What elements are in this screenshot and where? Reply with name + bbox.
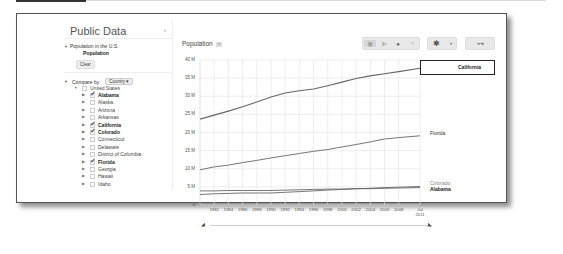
tree-item-label: Arizona [98,107,115,114]
top-divider [86,0,546,1]
expand-icon[interactable]: ▶ [82,114,90,121]
y-tick-label: 10 M [173,166,195,171]
expand-icon[interactable]: ▶ [82,144,90,151]
chart-title: Population? [182,40,222,47]
sidebar-title: Public Data [70,25,126,37]
x-tick-label: 2008 [390,207,408,212]
tree-item[interactable]: ▶Arkansas [82,114,119,121]
y-tick-label: 35 M [173,75,195,80]
clear-button[interactable]: Clear [76,60,95,69]
checkbox[interactable] [90,145,95,150]
checkbox[interactable] [90,167,95,172]
tree-item[interactable]: ▶Connecticut [82,136,124,143]
divider [64,38,172,39]
expand-icon: ▼ [64,79,70,84]
checkbox[interactable] [90,160,95,165]
collapse-icon[interactable]: ▼ [74,85,82,92]
checkbox[interactable] [82,86,87,91]
y-tick-label: 15 M [173,148,195,153]
gear-icon: ✱ [431,39,443,48]
checkbox[interactable] [90,100,95,105]
bubble-chart-icon[interactable]: ⁘ [406,40,418,47]
checkbox[interactable] [90,174,95,179]
tree-item-label: District of Columbia [98,151,141,158]
tree-item[interactable]: ▶California [82,122,121,129]
checkbox[interactable] [90,108,95,113]
tree-item-label: Hawaii [98,173,113,180]
link-button[interactable]: ⊶ [465,37,495,50]
x-tick-label: Jul 2011 [414,207,426,217]
tree-item-label: Idaho [98,181,111,188]
timeline-end-handle[interactable]: ◣ [428,221,432,227]
y-tick-label: 40 M [173,57,195,62]
tree-item[interactable]: ▶Hawaii [82,173,113,180]
help-icon[interactable]: ? [216,42,222,47]
tree-item-label: California [98,122,121,129]
tree-item-label: Arkansas [98,114,119,121]
tree-item-label: Alabama [98,92,119,99]
series-label-california[interactable]: California [458,64,481,70]
y-tick-label: 0 [173,202,195,207]
expand-icon[interactable]: ▶ [82,99,90,106]
timeline-start-handle[interactable]: ◢ [201,221,205,227]
dataset-metric[interactable]: Population [83,50,109,56]
tree-item-label: Georgia [98,166,116,173]
y-tick-label: 5 M [173,184,195,189]
dataset-name[interactable]: ▼Population in the U.S. [64,43,118,50]
expand-icon[interactable]: ▶ [82,136,90,143]
expand-icon[interactable]: ▶ [82,166,90,173]
expand-icon[interactable]: ▶ [82,122,90,129]
tree-item[interactable]: ▶Idaho [82,181,111,188]
settings-button[interactable]: ✱ ▾ [427,37,457,50]
expand-icon[interactable]: ▶ [82,159,90,166]
expand-icon[interactable]: ▶ [82,173,90,180]
checkbox[interactable] [90,137,95,142]
checkbox[interactable] [90,182,95,187]
timeline-slider[interactable] [210,225,430,226]
series-label-florida[interactable]: Florida [430,130,445,136]
tree-item-label: Connecticut [98,136,124,143]
tree-item-label: Alaska [98,99,113,106]
collapse-sidebar-icon[interactable]: ‹ [164,27,166,33]
tree-item[interactable]: ▶Colorado [82,129,120,136]
y-tick-label: 20 M [173,130,195,135]
dimension-dropdown[interactable]: Country ▾ [105,78,133,85]
map-icon[interactable]: ● [392,41,404,47]
top-bar-accent [16,0,86,2]
chevron-down-icon: ▾ [448,41,454,46]
checkbox[interactable] [90,93,95,98]
tree-item[interactable]: ▶Florida [82,159,115,166]
checkbox[interactable] [90,130,95,135]
tree-root[interactable]: ▼United States [74,85,120,92]
expand-icon[interactable]: ▶ [82,181,90,188]
y-tick-label: 25 M [173,111,195,116]
expand-icon[interactable]: ▶ [82,107,90,114]
tree-item[interactable]: ▶Arizona [82,107,115,114]
chart-type-toolbar: ⊵ ⊫ ● ⁘ [362,37,420,50]
line-chart-icon[interactable]: ⊵ [364,40,376,47]
expand-icon[interactable]: ▶ [82,92,90,99]
tree-item-label: Delaware [98,144,119,151]
divider [64,72,172,73]
series-label-alabama[interactable]: Alabama [430,186,451,192]
link-icon: ⊶ [472,40,488,48]
tree-item-label: Florida [98,159,115,166]
tree-item[interactable]: ▶Delaware [82,144,119,151]
tree-item[interactable]: ▶Georgia [82,166,116,173]
tree-item[interactable]: ▶Alaska [82,99,113,106]
tree-item-label: Colorado [98,129,120,136]
expand-icon[interactable]: ▶ [82,129,90,136]
compare-by-label: Compare by [72,79,99,85]
expand-icon[interactable]: ▶ [82,151,90,158]
chevron-down-icon: ▾ [126,79,129,84]
tree-item[interactable]: ▶Alabama [82,92,119,99]
compare-by-row: ▼ Compare by Country ▾ [64,78,133,85]
bar-chart-icon[interactable]: ⊫ [378,40,390,47]
y-tick-label: 30 M [173,93,195,98]
